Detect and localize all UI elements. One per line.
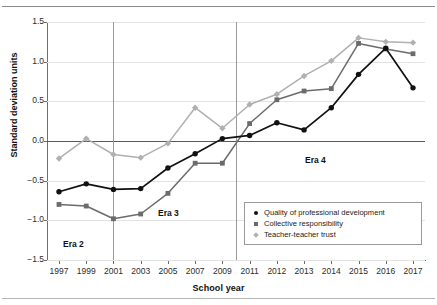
data-point-marker (410, 39, 416, 45)
data-point-marker (247, 133, 252, 138)
x-tick-mark (141, 261, 142, 264)
x-tick-mark (277, 261, 278, 264)
data-point-marker (192, 151, 197, 156)
data-point-marker (138, 186, 143, 191)
legend-item[interactable]: Quality of professional development (250, 207, 415, 218)
data-point-marker (138, 212, 143, 217)
data-point-marker (356, 72, 361, 77)
legend-label: Quality of professional development (264, 208, 385, 217)
y-tick-label: −1.0 (2, 215, 44, 224)
x-tick-mark (168, 261, 169, 264)
x-tick-mark (86, 261, 87, 264)
circle-marker-icon (250, 211, 261, 215)
chart-legend: Quality of professional developmentColle… (244, 202, 422, 245)
x-axis-title: School year (0, 283, 437, 293)
data-point-marker (111, 187, 116, 192)
legend-item[interactable]: Teacher-teacher trust (250, 229, 415, 240)
y-axis-ticks: 1.51.00.50.0−0.5−1.0−1.5 (0, 0, 44, 305)
data-point-marker (329, 86, 334, 91)
data-point-marker (220, 136, 225, 141)
series-circle (56, 45, 415, 194)
data-point-marker (84, 181, 89, 186)
data-point-marker (111, 216, 116, 221)
x-tick-mark (413, 261, 414, 264)
y-tick-label: 1.0 (2, 57, 44, 66)
series-line (59, 43, 413, 218)
era-4-label: Era 4 (305, 155, 326, 165)
data-point-marker (383, 39, 389, 45)
legend-item[interactable]: Collective responsibility (250, 218, 415, 229)
x-tick-mark (222, 261, 223, 264)
y-tick-label: 1.5 (2, 17, 44, 26)
x-tick-mark (386, 261, 387, 264)
data-point-marker (166, 191, 171, 196)
data-point-marker (411, 51, 416, 56)
data-point-marker (274, 97, 279, 102)
data-point-marker (165, 165, 170, 170)
data-point-marker (410, 85, 415, 90)
data-point-marker (193, 161, 198, 166)
data-point-marker (110, 151, 116, 157)
data-point-marker (137, 154, 143, 160)
data-point-marker (220, 161, 225, 166)
x-tick-mark (331, 261, 332, 264)
figure-container: Standard deviation units School year 1.5… (0, 0, 437, 305)
y-tick-label: −1.5 (2, 255, 44, 264)
x-tick-mark (113, 261, 114, 264)
legend-label: Collective responsibility (264, 219, 343, 228)
era-3-label: Era 3 (158, 208, 179, 218)
data-point-marker (301, 127, 306, 132)
data-point-marker (84, 204, 89, 209)
top-divider-rule (2, 6, 435, 7)
legend-label: Teacher-teacher trust (264, 230, 336, 239)
era-2-label: Era 2 (63, 239, 84, 249)
x-tick-mark (250, 261, 251, 264)
data-point-marker (57, 202, 62, 207)
data-point-marker (274, 120, 279, 125)
y-tick-label: 0.0 (2, 136, 44, 145)
data-point-marker (383, 45, 388, 50)
y-tick-label: 0.5 (2, 96, 44, 105)
diamond-marker-icon (250, 233, 261, 237)
marker-glyph (253, 232, 259, 238)
y-tick-label: −0.5 (2, 176, 44, 185)
data-point-marker (302, 89, 307, 94)
marker-glyph (254, 222, 258, 226)
x-tick-mark (59, 261, 60, 264)
gridline (47, 260, 425, 261)
series-square (57, 41, 416, 221)
x-tick-mark (304, 261, 305, 264)
x-tick-mark (195, 261, 196, 264)
x-tick-mark (359, 261, 360, 264)
data-point-marker (329, 105, 334, 110)
square-marker-icon (250, 222, 261, 226)
data-point-marker (247, 121, 252, 126)
series-line (59, 48, 413, 192)
x-tick-label: 2017 (393, 266, 433, 276)
bottom-divider-rule (2, 298, 435, 299)
data-point-marker (356, 41, 361, 46)
marker-glyph (254, 211, 258, 215)
data-point-marker (56, 189, 61, 194)
series-line (59, 38, 413, 159)
